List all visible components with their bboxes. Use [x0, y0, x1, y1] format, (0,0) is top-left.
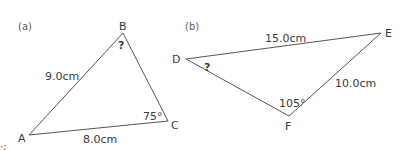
angle-d-unknown: ? — [204, 61, 210, 74]
side-ab-length: 9.0cm — [45, 70, 79, 83]
part-label-b: (b) — [185, 21, 199, 32]
triangles-figure: (a) B A C 9.0cm 8.0cm 75° ? (b) D E F 15… — [0, 0, 402, 150]
vertex-e-label: E — [385, 27, 392, 40]
vertex-a-label: A — [18, 132, 26, 145]
triangle-a: (a) B A C 9.0cm 8.0cm 75° ? — [18, 20, 179, 146]
triangle-b: (b) D E F 15.0cm 10.0cm 105° ? — [172, 21, 392, 133]
vertex-f-label: F — [285, 120, 291, 133]
vertex-b-label: B — [119, 20, 127, 33]
side-ef-length: 10.0cm — [335, 77, 376, 90]
side-de-length: 15.0cm — [265, 32, 306, 45]
side-ac-length: 8.0cm — [83, 133, 117, 146]
vertex-c-label: C — [171, 119, 179, 132]
part-label-a: (a) — [18, 21, 32, 32]
vertex-d-label: D — [172, 53, 180, 66]
angle-f-value: 105° — [279, 97, 306, 110]
angle-c-value: 75° — [143, 110, 163, 123]
stray-mark: ·: — [0, 141, 7, 150]
angle-b-unknown: ? — [118, 39, 124, 52]
